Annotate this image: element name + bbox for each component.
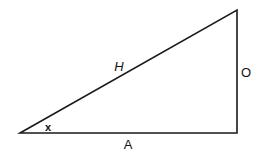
triangle-diagram: H O A x bbox=[0, 0, 269, 157]
hypotenuse-label: H bbox=[114, 59, 124, 74]
opposite-label: O bbox=[241, 65, 251, 80]
adjacent-label: A bbox=[124, 137, 133, 152]
angle-label: x bbox=[45, 121, 52, 133]
right-triangle bbox=[20, 10, 237, 133]
